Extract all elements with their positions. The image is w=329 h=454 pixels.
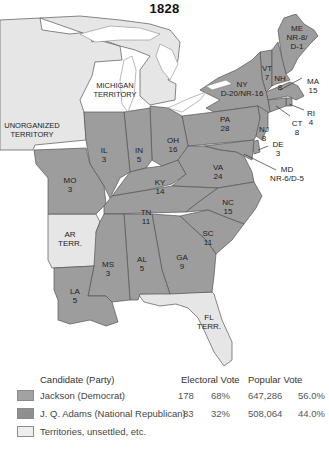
label-GA-votes: 9	[180, 262, 185, 271]
jackson-electoral-pct: 68%	[211, 390, 230, 401]
label-IN-votes: 5	[137, 155, 142, 164]
legend-row-adams: J. Q. Adams (National Republican) 83 32%…	[0, 408, 329, 422]
label-MO: MO	[64, 176, 77, 185]
label-AL-votes: 5	[140, 264, 145, 273]
label-VA: VA	[213, 163, 224, 172]
label-NY-votes: D-20/NR-16	[221, 89, 264, 98]
label-NJ: NJ	[259, 125, 269, 134]
label-VA-votes: 24	[214, 172, 223, 181]
label-OH-votes: 16	[169, 145, 178, 154]
adams-electoral-pct: 32%	[211, 408, 230, 419]
jackson-popular-votes: 647,286	[248, 390, 282, 401]
legend-header-popular: Popular Vote	[248, 374, 302, 385]
label-michigan-territory-2: TERRITORY	[93, 90, 136, 99]
label-IL-votes: 3	[102, 155, 107, 164]
label-RI-votes: 4	[309, 118, 314, 127]
adams-swatch	[17, 408, 34, 419]
label-CT-votes: 8	[295, 128, 300, 137]
territories-swatch	[17, 426, 34, 437]
label-PA-votes: 28	[221, 124, 230, 133]
election-map: UNORGANIZED TERRITORY MICHIGAN TERRITORY…	[0, 14, 329, 372]
label-fl-terr-2: TERR.	[197, 322, 221, 331]
label-TN-votes: 11	[142, 217, 151, 226]
adams-popular-pct: 44.0%	[298, 408, 325, 419]
state-CT	[268, 98, 286, 112]
label-unorganized-territory-2: TERRITORY	[10, 130, 53, 139]
label-MS-votes: 3	[106, 269, 111, 278]
label-ME-votes: NR-8/	[287, 33, 309, 42]
label-MS: MS	[102, 260, 114, 269]
label-RI: RI	[307, 109, 315, 118]
label-DE: DE	[272, 140, 283, 149]
label-NJ-votes: 8	[262, 134, 267, 143]
legend-row-jackson: Jackson (Democrat) 178 68% 647,286 56.0%	[0, 390, 329, 404]
label-MD-votes: NR-6/D-5	[270, 174, 304, 183]
adams-popular-votes: 508,064	[248, 408, 282, 419]
label-LA: LA	[70, 287, 80, 296]
jackson-electoral-votes: 178	[178, 390, 194, 401]
label-MA-votes: 15	[309, 86, 318, 95]
adams-electoral-votes: 83	[183, 408, 194, 419]
legend-row-territories: Territories, unsettled, etc.	[0, 426, 329, 440]
label-MO-votes: 3	[68, 185, 73, 194]
jackson-swatch	[17, 390, 34, 401]
jackson-popular-pct: 56.0%	[298, 390, 325, 401]
legend-label-adams: J. Q. Adams (National Republican)	[40, 408, 186, 419]
label-LA-votes: 5	[73, 296, 78, 305]
label-ar-terr: AR	[64, 230, 75, 239]
label-GA: GA	[176, 253, 188, 262]
label-ME: ME	[291, 24, 303, 33]
label-PA: PA	[220, 115, 231, 124]
legend-header-candidate: Candidate (Party)	[40, 374, 114, 385]
label-NC: NC	[222, 198, 234, 207]
label-CT: CT	[292, 119, 303, 128]
label-SC: SC	[202, 229, 213, 238]
label-AL: AL	[137, 255, 147, 264]
label-VT-votes: 7	[265, 73, 270, 82]
label-MA: MA	[307, 77, 320, 86]
legend-label-jackson: Jackson (Democrat)	[40, 390, 125, 401]
legend-label-territories: Territories, unsettled, etc.	[40, 426, 146, 437]
label-KY-votes: 14	[156, 187, 165, 196]
label-unorganized-territory: UNORGANIZED	[4, 121, 60, 130]
label-NH-votes: 8	[278, 83, 283, 92]
label-TN: TN	[141, 208, 152, 217]
label-IL: IL	[101, 146, 108, 155]
label-ar-terr-2: TERR.	[58, 239, 82, 248]
label-SC-votes: 11	[204, 238, 213, 247]
label-MD: MD	[281, 165, 294, 174]
label-ME-votes-2: D-1	[291, 42, 304, 51]
label-VT: VT	[262, 64, 272, 73]
label-NY: NY	[236, 80, 248, 89]
label-michigan-territory: MICHIGAN	[96, 81, 134, 90]
label-fl-terr: FL	[204, 313, 214, 322]
label-DE-votes: 3	[276, 149, 281, 158]
label-NH: NH	[274, 74, 286, 83]
label-OH: OH	[167, 136, 179, 145]
label-IN: IN	[135, 146, 143, 155]
label-KY: KY	[155, 178, 166, 187]
legend-header-electoral: Electoral Vote	[181, 374, 240, 385]
label-NC-votes: 15	[224, 207, 233, 216]
state-NY	[200, 52, 270, 116]
